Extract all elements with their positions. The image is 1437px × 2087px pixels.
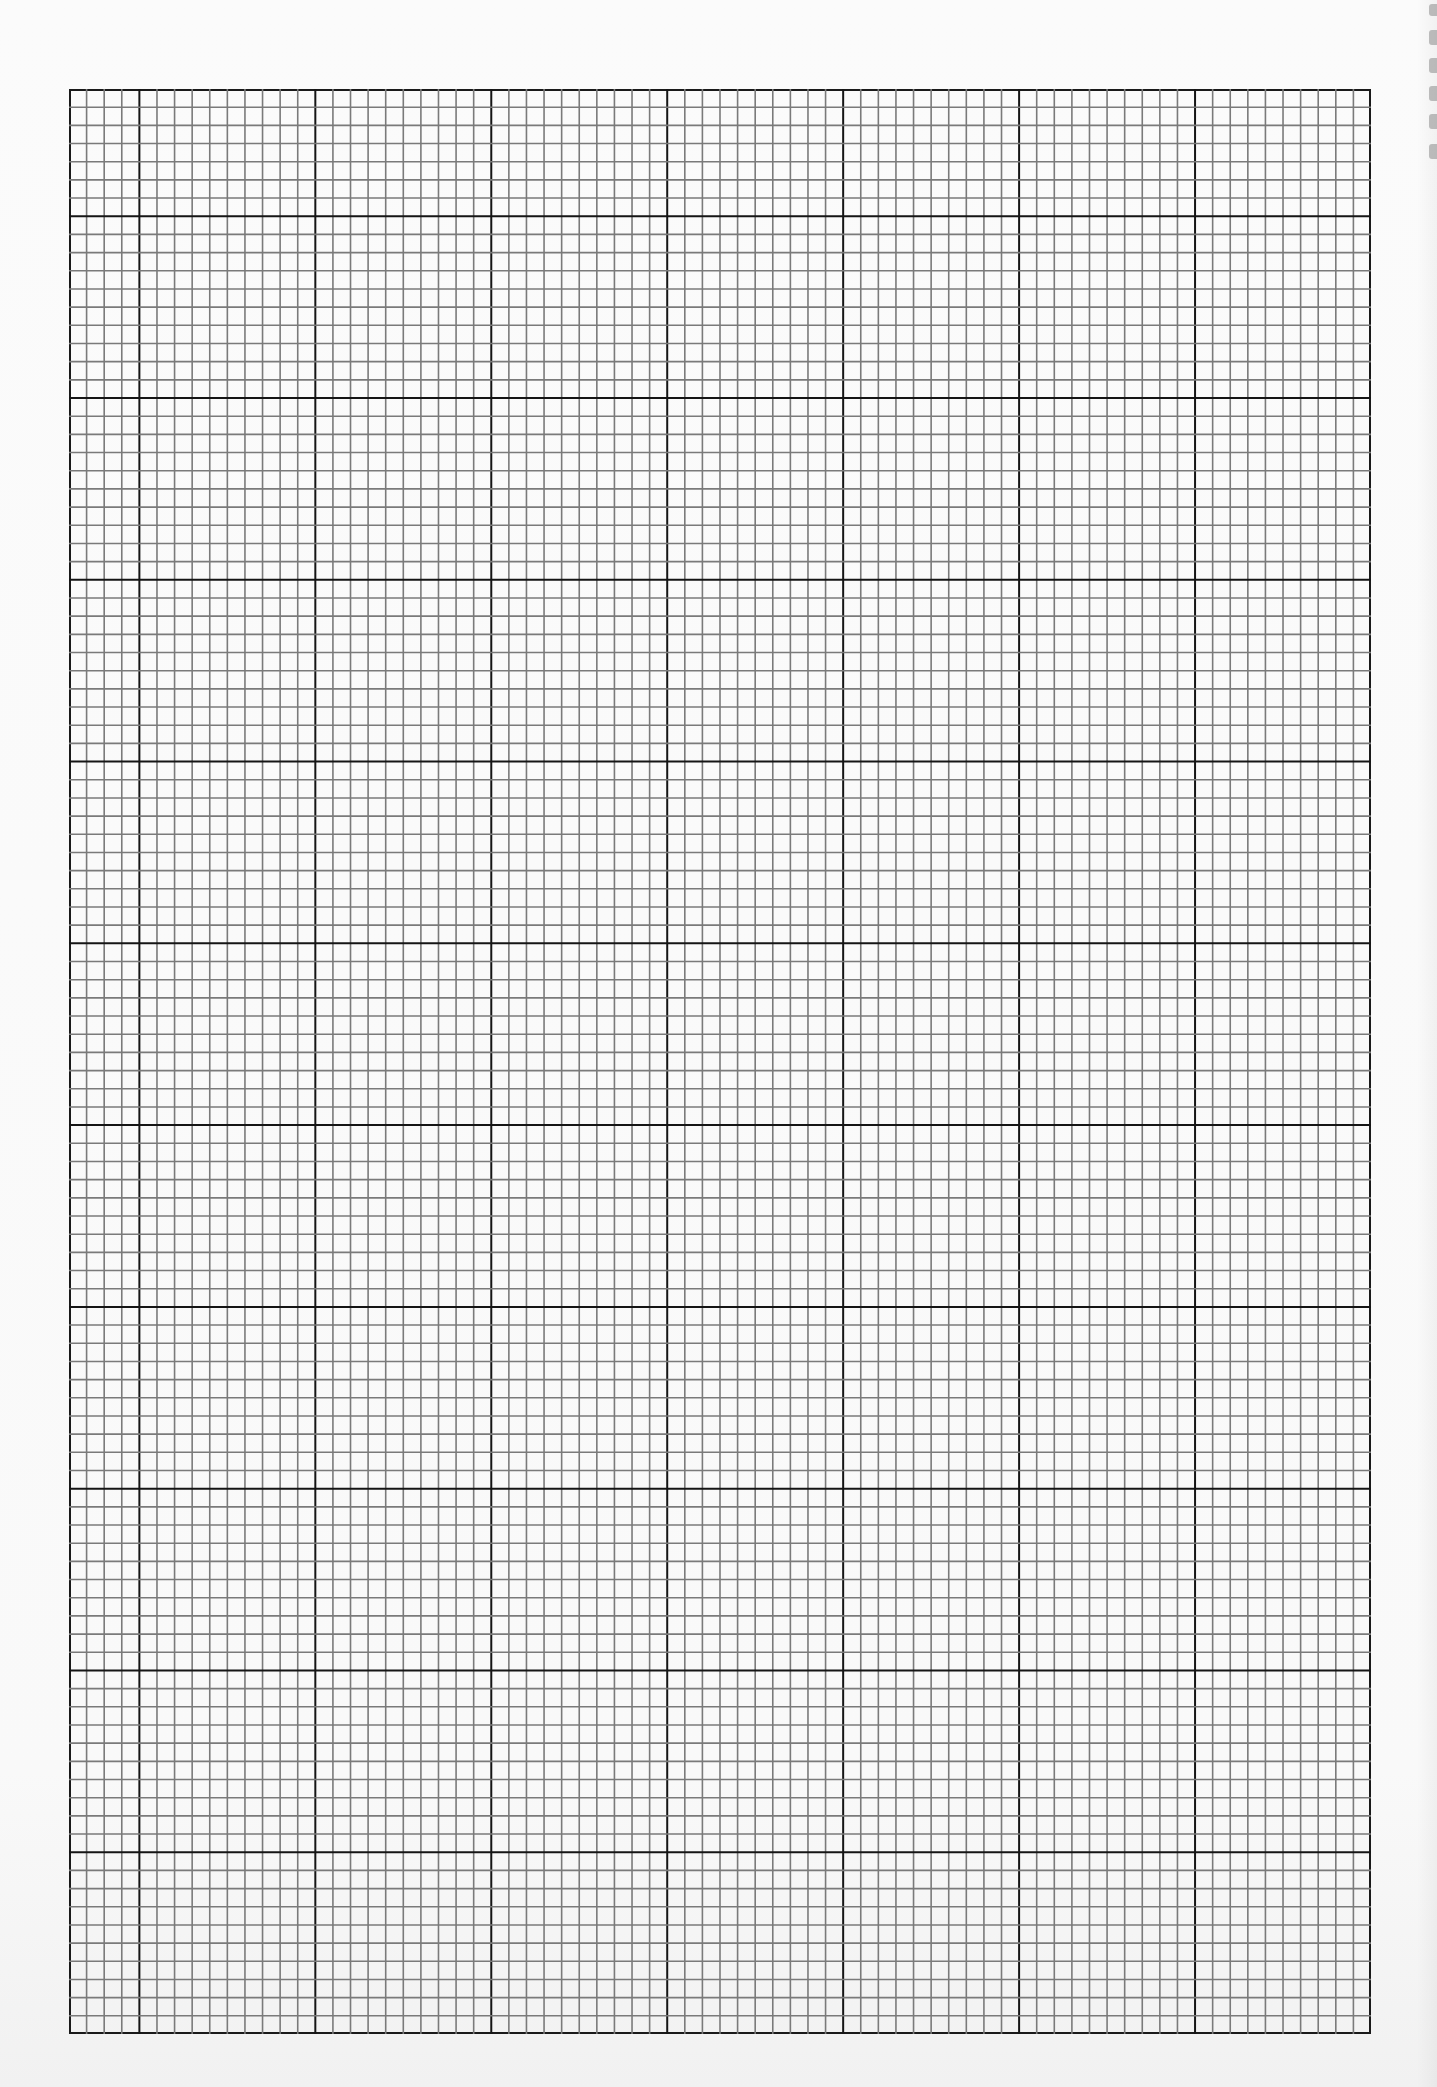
perforation-mark (1429, 114, 1437, 129)
perforation-mark (1429, 144, 1437, 159)
perforation-mark (1429, 86, 1437, 101)
perforation-mark (1429, 58, 1437, 73)
perforation-mark (1429, 30, 1437, 45)
grid-lines (69, 89, 1371, 2034)
graph-paper-sheet (0, 0, 1437, 2087)
millimeter-grid (69, 89, 1371, 2034)
binding-edge-shadow (1417, 0, 1437, 2087)
perforation-mark (1429, 4, 1437, 16)
